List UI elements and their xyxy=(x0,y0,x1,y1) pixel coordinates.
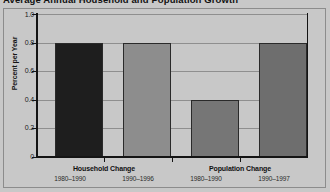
y-tick-label-5: 1.0 xyxy=(4,11,34,18)
chart-title: Average Annual Household and Population … xyxy=(3,0,325,6)
bar-household-1990-1996 xyxy=(123,43,171,157)
bar-population-1990-1997 xyxy=(259,43,307,157)
chart-figure: Average Annual Household and Population … xyxy=(0,0,330,192)
group-label-population-change: Population Change xyxy=(172,165,308,172)
bar-household-1980-1990 xyxy=(55,43,103,157)
x-tick-mark-2 xyxy=(172,158,173,162)
gridline-1.0 xyxy=(36,14,308,15)
y-tick-label-2: 0.4 xyxy=(4,96,34,103)
y-tick-label-0: 0 xyxy=(4,153,34,160)
y-tick-label-3: 0.6 xyxy=(4,67,34,74)
plot-area xyxy=(36,14,308,157)
period-label-population-1990-1997: 1990–1997 xyxy=(240,175,308,182)
y-axis-right-line xyxy=(307,13,308,158)
y-tick-label-1: 0.2 xyxy=(4,124,34,131)
y-axis-label: Percent per Year xyxy=(11,34,18,94)
y-axis-line xyxy=(36,13,38,158)
y-tick-label-4: 0.8 xyxy=(4,39,34,46)
x-tick-mark-3 xyxy=(240,158,241,162)
bar-population-1980-1990 xyxy=(191,100,239,157)
x-tick-mark-1 xyxy=(104,158,105,162)
period-label-household-1980-1990: 1980–1990 xyxy=(36,175,104,182)
period-label-population-1980-1990: 1980–1990 xyxy=(172,175,240,182)
period-label-household-1990-1996: 1990–1996 xyxy=(104,175,172,182)
group-label-household-change: Household Change xyxy=(36,165,172,172)
